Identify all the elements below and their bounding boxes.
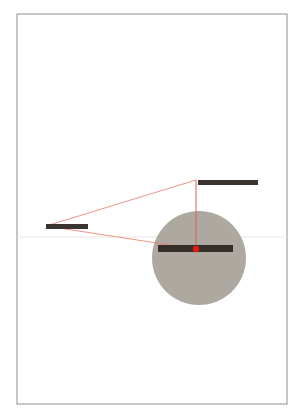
- gray-disc: [152, 211, 246, 305]
- diagram-svg: [0, 0, 301, 420]
- left-bar: [46, 224, 88, 229]
- focus-point-marker: [193, 246, 199, 252]
- page-border: [17, 14, 287, 404]
- diagram-canvas: [0, 0, 301, 420]
- top-right-bar: [198, 180, 258, 185]
